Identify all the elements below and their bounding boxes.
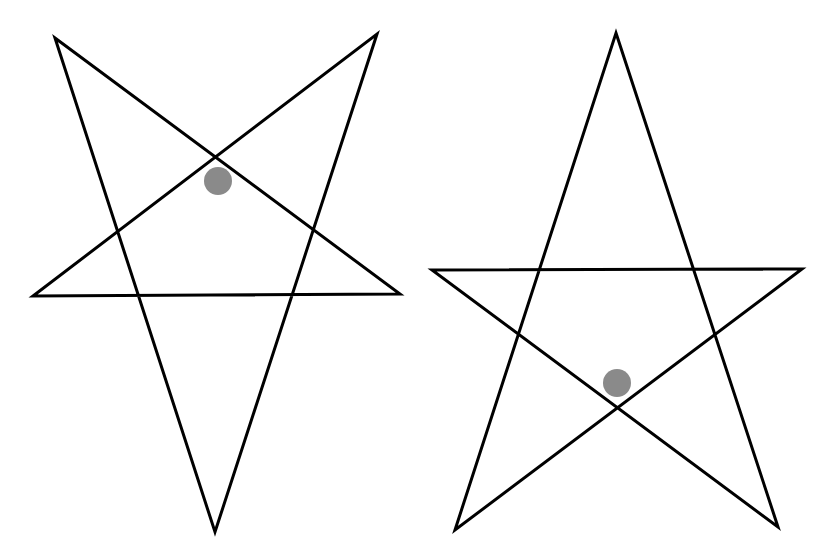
dot-right <box>603 369 631 397</box>
star-outline-left <box>33 34 400 532</box>
diagram-canvas <box>0 0 821 559</box>
dot-left <box>204 167 232 195</box>
star-outline-right <box>432 33 802 530</box>
star-right <box>432 33 802 530</box>
star-left <box>33 34 400 532</box>
